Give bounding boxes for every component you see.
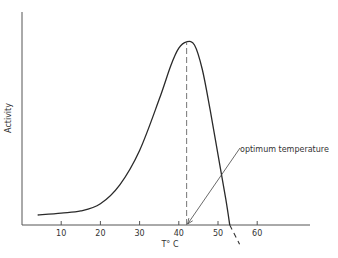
x-tick-label: 30 bbox=[135, 229, 145, 238]
x-tick-label: 50 bbox=[213, 229, 223, 238]
activity-curve bbox=[38, 41, 230, 225]
x-tick-label: 40 bbox=[174, 229, 184, 238]
x-tick-label: 60 bbox=[252, 229, 262, 238]
optimum-temperature-label: optimum temperature bbox=[240, 145, 329, 154]
annotation-arrow bbox=[188, 148, 240, 224]
y-axis-label: Activity bbox=[4, 103, 13, 133]
extrapolated-decline-line bbox=[230, 225, 240, 244]
x-tick-label: 10 bbox=[56, 229, 66, 238]
x-axis-label: T° C bbox=[160, 240, 178, 249]
arrowhead-icon bbox=[188, 218, 193, 224]
activity-temperature-chart: 102030405060 optimum temperature Activit… bbox=[0, 0, 338, 258]
x-tick-label: 20 bbox=[95, 229, 105, 238]
